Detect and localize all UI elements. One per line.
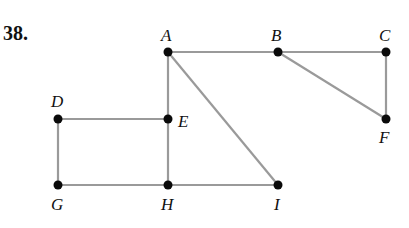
vertex-label-G: G [51,195,63,214]
vertex-label-I: I [273,195,281,214]
edge-B-F [278,52,386,119]
vertex-label-H: H [160,195,175,214]
vertex-B [274,48,283,57]
vertex-label-D: D [50,92,64,111]
vertex-F [382,115,391,124]
vertex-label-A: A [160,26,172,45]
vertex-H [164,181,173,190]
vertex-label-F: F [378,128,390,147]
vertex-D [54,115,63,124]
edges-group [58,52,386,185]
vertex-label-C: C [379,26,391,45]
vertex-A [164,48,173,57]
vertex-G [54,181,63,190]
vertex-label-E: E [177,112,189,131]
vertex-label-B: B [271,26,282,45]
vertex-E [164,115,173,124]
graph-diagram: ABCDEFGHI [0,0,409,228]
vertex-I [274,181,283,190]
vertex-C [382,48,391,57]
